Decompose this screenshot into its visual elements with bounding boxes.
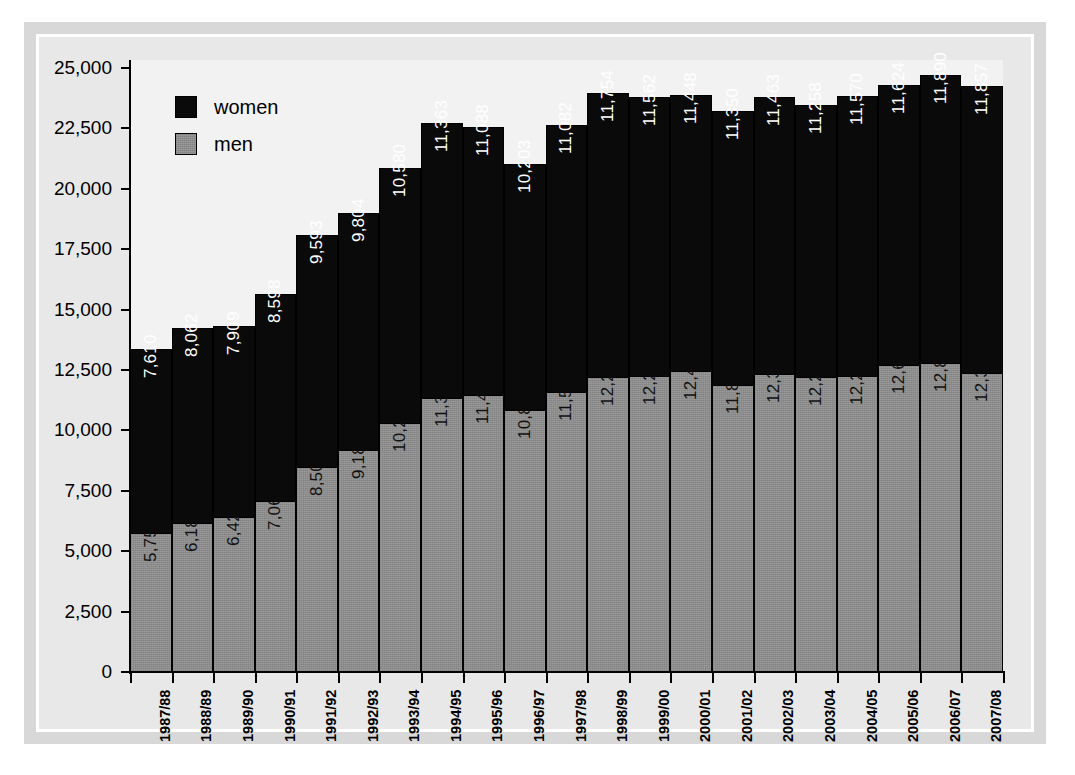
bar-segment-men[interactable]: 12,264	[837, 376, 879, 672]
bar-segment-men[interactable]: 12,245	[629, 376, 671, 672]
bar-column[interactable]: 11,48211,088	[463, 68, 505, 672]
x-axis-tick-mark	[504, 672, 506, 683]
bar-segment-men[interactable]: 12,693	[878, 365, 920, 672]
bar-column[interactable]: 10,84210,203	[504, 68, 546, 672]
bar-segment-women[interactable]: 7,610	[130, 349, 172, 533]
bar-value-label: 10,580	[390, 144, 410, 197]
stacked-bar-chart: 02,5005,0007,50010,00012,50015,00017,500…	[0, 0, 1075, 775]
bar-segment-men[interactable]: 11,358	[421, 398, 463, 672]
bar-segment-women[interactable]: 11,890	[920, 75, 962, 362]
bar-column[interactable]: 12,69311,624	[878, 68, 920, 672]
bar-segment-women[interactable]: 11,463	[754, 97, 796, 374]
bar-segment-men[interactable]: 8,505	[296, 467, 338, 672]
bar-segment-men[interactable]: 6,181	[172, 523, 214, 672]
bar-value-label: 11,562	[640, 74, 660, 126]
y-axis-tick-label: 17,500	[20, 238, 112, 260]
bar-segment-men[interactable]: 12,210	[795, 377, 837, 672]
legend-label: women	[214, 96, 278, 119]
y-axis-tick-label: 20,000	[20, 178, 112, 200]
x-axis-line	[129, 671, 1005, 673]
bar-segment-men[interactable]: 6,426	[213, 517, 255, 672]
y-axis-tick-label: 7,500	[20, 480, 112, 502]
x-axis-tick-mark	[670, 672, 672, 683]
bar-column[interactable]: 5,7577,610	[130, 68, 172, 672]
bar-column[interactable]: 12,24511,562	[629, 68, 671, 672]
bar-segment-women[interactable]: 11,570	[837, 96, 879, 376]
y-axis-tick-label: 0	[20, 661, 112, 683]
x-axis-tick-label: 1995/96	[489, 690, 505, 742]
bar-value-label: 11,754	[598, 70, 618, 122]
bar-column[interactable]: 10,29210,580	[379, 68, 421, 672]
bar-value-label: 11,363	[432, 100, 452, 152]
bar-column[interactable]: 8,5059,593	[296, 68, 338, 672]
bar-segment-women[interactable]: 7,909	[213, 326, 255, 517]
x-axis-tick-label: 2006/07	[947, 690, 963, 742]
x-axis-tick-label: 1994/95	[448, 690, 464, 742]
bar-segment-women[interactable]: 11,082	[546, 125, 588, 393]
bar-column[interactable]: 12,80911,890	[920, 68, 962, 672]
bar-segment-men[interactable]: 10,292	[379, 423, 421, 672]
bar-segment-men[interactable]: 12,226	[587, 377, 629, 672]
bar-value-label: 11,890	[931, 52, 951, 104]
bar-segment-women[interactable]: 8,598	[255, 294, 297, 502]
bar-column[interactable]: 12,22611,754	[587, 68, 629, 672]
bar-segment-men[interactable]: 11,577	[546, 392, 588, 672]
bar-column[interactable]: 11,86111,350	[712, 68, 754, 672]
x-axis-tick-mark	[463, 672, 465, 683]
bar-value-label: 7,909	[224, 311, 244, 355]
bar-segment-women[interactable]: 8,062	[172, 328, 214, 523]
bar-segment-men[interactable]: 12,442	[670, 371, 712, 672]
bar-segment-men[interactable]: 12,387	[961, 373, 1003, 672]
y-axis-tick-label: 5,000	[20, 540, 112, 562]
bar-segment-men[interactable]: 11,482	[463, 395, 505, 672]
x-axis-tick-label: 2005/06	[905, 690, 921, 742]
x-axis-tick-mark	[172, 672, 174, 683]
bar-segment-women[interactable]: 9,593	[296, 235, 338, 467]
bar-segment-women[interactable]: 11,088	[463, 127, 505, 395]
bar-segment-women[interactable]: 11,562	[629, 97, 671, 376]
bar-column[interactable]: 11,57711,082	[546, 68, 588, 672]
x-axis-tick-mark	[878, 672, 880, 683]
bar-column[interactable]: 11,35811,363	[421, 68, 463, 672]
y-axis-tick-label: 15,000	[20, 299, 112, 321]
bar-segment-women[interactable]: 11,363	[421, 123, 463, 398]
legend-item[interactable]: men	[175, 129, 278, 159]
bar-segment-women[interactable]: 9,804	[338, 213, 380, 450]
x-axis-tick-label: 2000/01	[697, 690, 713, 742]
legend: womenmen	[175, 92, 278, 166]
x-axis-tick-mark	[213, 672, 215, 683]
bar-segment-women[interactable]: 10,203	[504, 164, 546, 411]
y-axis-tick-label: 2,500	[20, 601, 112, 623]
x-axis-tick-mark	[379, 672, 381, 683]
bar-column[interactable]: 12,26411,570	[837, 68, 879, 672]
x-axis-tick-label: 1987/88	[157, 690, 173, 742]
legend-label: men	[214, 133, 253, 156]
bar-column[interactable]: 12,21011,258	[795, 68, 837, 672]
bar-column[interactable]: 9,1829,804	[338, 68, 380, 672]
bar-segment-women[interactable]: 11,448	[670, 95, 712, 372]
bar-column[interactable]: 12,34911,463	[754, 68, 796, 672]
bar-segment-women[interactable]: 11,258	[795, 105, 837, 377]
bar-segment-women[interactable]: 11,857	[961, 86, 1003, 372]
bar-segment-men[interactable]: 12,809	[920, 363, 962, 672]
bar-segment-women[interactable]: 11,350	[712, 111, 754, 385]
bar-segment-women[interactable]: 11,754	[587, 93, 629, 377]
bar-value-label: 11,463	[764, 74, 784, 126]
bar-segment-men[interactable]: 10,842	[504, 410, 546, 672]
legend-item[interactable]: women	[175, 92, 278, 122]
bar-segment-men[interactable]: 7,069	[255, 501, 297, 672]
bar-column[interactable]: 12,44211,448	[670, 68, 712, 672]
bar-value-label: 11,624	[889, 62, 909, 114]
x-axis-tick-mark	[546, 672, 548, 683]
bar-segment-women[interactable]: 11,624	[878, 85, 920, 366]
x-axis-tick-label: 2002/03	[780, 690, 796, 742]
bar-segment-men[interactable]: 11,861	[712, 385, 754, 672]
bar-column[interactable]: 12,38711,857	[961, 68, 1003, 672]
bar-segment-men[interactable]: 9,182	[338, 450, 380, 672]
bar-value-label: 11,857	[972, 63, 992, 115]
x-axis-tick-label: 1997/98	[573, 690, 589, 742]
bar-segment-men[interactable]: 5,757	[130, 533, 172, 672]
bar-segment-men[interactable]: 12,349	[754, 374, 796, 672]
x-axis-tick-label: 1990/91	[282, 690, 298, 742]
bar-segment-women[interactable]: 10,580	[379, 168, 421, 424]
